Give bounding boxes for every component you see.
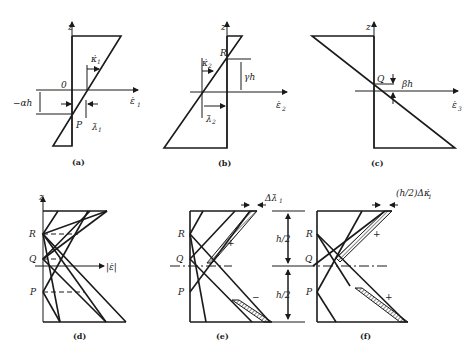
z-label: z [365, 22, 371, 32]
alpha-h-label: −αh [13, 98, 32, 108]
x-axis-label: ε̇ [276, 100, 281, 110]
panel-c: z ε̇ 3 Q βh (c) [312, 22, 462, 168]
h-half-lower: h/2 [276, 290, 291, 300]
svg-text:1: 1 [98, 126, 102, 133]
x-axis-label: ε̇ [452, 100, 457, 110]
lambda-label: λ̇ [205, 114, 212, 124]
point-P: P [29, 287, 37, 297]
strain-rate-diagram: z 0 ε̇ 1 P −αh κ̇ 1 λ̇ 1 (a) z ε̇ 2 R γh… [0, 0, 475, 352]
point-label: Q [377, 74, 385, 84]
kappa-label: κ̇ [201, 58, 208, 68]
caption: (c) [371, 158, 384, 168]
svg-text:2: 2 [211, 118, 216, 125]
point-R: R [28, 229, 36, 239]
svg-text:1: 1 [97, 58, 101, 65]
point-P: P [305, 287, 313, 297]
svg-text:2: 2 [207, 62, 212, 69]
panel-b: z ε̇ 2 R γh κ̇ 2 λ̇ 2 (b) [164, 22, 287, 168]
point-P: P [177, 287, 185, 297]
sign-upper: + [227, 238, 235, 248]
panel-f: (h/2)Δκ̇ 1 + + R Q P (f) [305, 188, 432, 341]
svg-text:1: 1 [137, 101, 141, 108]
svg-text:1: 1 [279, 197, 283, 204]
z-label: z [38, 192, 44, 202]
point-R: R [305, 229, 313, 239]
origin-label: 0 [61, 80, 67, 90]
svg-text:2: 2 [281, 105, 286, 112]
caption: (f) [360, 331, 371, 341]
x-axis-label: ε̇ [130, 96, 135, 106]
caption: (d) [73, 331, 86, 341]
point-label: R [219, 48, 227, 58]
lambda-label: λ̇ [91, 122, 98, 132]
caption: (b) [218, 158, 231, 168]
kappa-label: κ̇ [90, 54, 97, 64]
z-label: z [67, 22, 73, 32]
point-Q: Q [29, 254, 37, 264]
panel-d: z |ε̇| R Q P (d) [28, 192, 126, 341]
caption: (a) [72, 157, 85, 167]
svg-text:3: 3 [458, 105, 462, 112]
beta-h-label: βh [401, 79, 413, 89]
h-half-delta-kappa-label: (h/2)Δκ̇ [396, 188, 430, 198]
strain-profile [53, 36, 121, 146]
sign-lower: − [252, 292, 260, 302]
x-axis-label: |ε̇| [106, 262, 117, 273]
panel-e: Δλ̇ 1 + − R Q P h/2 h/2 (e) [170, 193, 305, 341]
point-Q: Q [305, 254, 313, 264]
delta-lambda-label: Δλ̇ [264, 193, 277, 203]
point-R: R [177, 229, 185, 239]
svg-text:1: 1 [428, 193, 432, 200]
panel-a: z 0 ε̇ 1 P −αh κ̇ 1 λ̇ 1 (a) [13, 22, 141, 167]
strain-profile [312, 36, 455, 148]
sign-upper: + [373, 229, 381, 239]
point-label: P [75, 120, 83, 130]
point-Q: Q [176, 254, 184, 264]
z-label: z [220, 22, 226, 32]
sign-lower: + [385, 292, 393, 302]
caption: (e) [216, 331, 229, 341]
gamma-h-label: γh [244, 72, 255, 82]
h-half-upper: h/2 [276, 234, 291, 244]
